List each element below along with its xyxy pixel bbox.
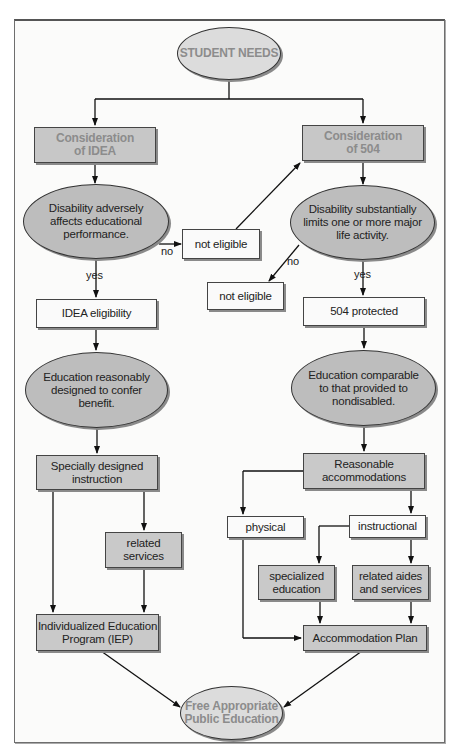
specialized-education-node: specialized education	[258, 565, 335, 600]
iep-node: Individualized Education Program (IEP)	[36, 614, 159, 651]
idea-decision-node: Disability adversely affects educational…	[23, 184, 169, 259]
idea-no-label: no	[161, 245, 173, 257]
consideration-504-line2: of 504	[324, 143, 402, 156]
instructional-label: instructional	[358, 520, 417, 533]
504-protected-node: 504 protected	[303, 297, 425, 326]
504-decision-node: Disability substantially limits one or m…	[290, 185, 435, 260]
instructional-node: instructional	[349, 515, 426, 538]
iep-line2: Program (IEP)	[38, 633, 157, 646]
related-aides-line1: related aides	[359, 570, 422, 583]
related-services-node: related services	[105, 532, 182, 568]
student-needs-node: STUDENT NEEDS	[177, 27, 281, 80]
specially-designed-line1: Specially designed	[51, 460, 143, 473]
not-eligible-504-node: not eligible	[207, 282, 284, 310]
not-eligible-idea-label: not eligible	[195, 238, 248, 251]
specialized-education-line1: specialized	[269, 570, 324, 583]
related-aides-line2: and services	[359, 583, 422, 596]
idea-decision-line3: performance.	[49, 228, 143, 241]
reasonable-accommodations-line1: Reasonable	[322, 458, 406, 471]
specially-designed-line2: instruction	[51, 473, 143, 486]
related-services-line1: related	[123, 537, 164, 550]
related-aides-node: related aides and services	[352, 565, 429, 600]
consideration-idea-node: Consideration of IDEA	[34, 127, 156, 163]
not-eligible-504-label: not eligible	[219, 290, 272, 303]
504-decision-line3: life activity.	[303, 229, 422, 242]
idea-standard-line3: benefit.	[43, 397, 150, 410]
reasonable-accommodations-line2: accommodations	[322, 471, 406, 484]
idea-standard-line2: designed to confer	[43, 384, 150, 397]
idea-standard-line1: Education reasonably	[43, 371, 150, 384]
physical-node: physical	[227, 516, 304, 538]
504-standard-node: Education comparable to that provided to…	[291, 350, 436, 426]
idea-eligibility-node: IDEA eligibility	[36, 299, 157, 328]
idea-decision-line2: affects educational	[49, 215, 143, 228]
consideration-504-node: Consideration of 504	[302, 125, 424, 161]
specialized-education-line2: education	[269, 583, 324, 596]
504-standard-line3: nondisabled.	[308, 395, 418, 408]
accommodation-plan-label: Accommodation Plan	[312, 632, 417, 645]
iep-line1: Individualized Education	[38, 620, 157, 633]
fape-node: Free Appropriate Public Education	[180, 686, 283, 740]
fape-line2: Public Education	[184, 713, 278, 726]
504-decision-line1: Disability substantially	[303, 203, 422, 216]
idea-decision-line1: Disability adversely	[49, 202, 143, 215]
related-services-line2: services	[123, 550, 164, 563]
specially-designed-node: Specially designed instruction	[36, 455, 158, 490]
accommodation-plan-node: Accommodation Plan	[303, 625, 427, 651]
504-decision-line2: limits one or more major	[303, 216, 422, 229]
504-standard-line2: to that provided to	[308, 382, 418, 395]
physical-label: physical	[246, 521, 286, 534]
504-protected-label: 504 protected	[330, 305, 398, 318]
504-standard-line1: Education comparable	[308, 369, 418, 382]
idea-standard-node: Education reasonably designed to confer …	[25, 352, 168, 428]
reasonable-accommodations-node: Reasonable accommodations	[303, 453, 425, 489]
idea-eligibility-label: IDEA eligibility	[62, 307, 132, 320]
not-eligible-idea-node: not eligible	[182, 229, 260, 259]
consideration-idea-line2: of IDEA	[56, 145, 134, 158]
idea-yes-label: yes	[86, 269, 103, 281]
504-no-label: no	[287, 255, 299, 267]
504-yes-label: yes	[354, 268, 371, 280]
student-needs-label: STUDENT NEEDS	[180, 47, 279, 60]
